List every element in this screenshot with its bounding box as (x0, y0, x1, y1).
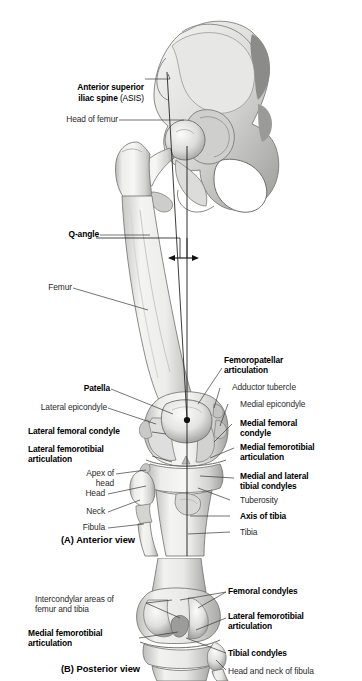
anatomy-figure: Anterior superior iliac spine (ASIS) Hea… (0, 0, 362, 681)
label-lateral-femorotibial-articulation-posterior: Lateral femorotibial articulation (228, 611, 354, 632)
caption-anterior-view: (A) Anterior view (61, 535, 135, 545)
label-fibula: Fibula (62, 522, 105, 532)
label-head-of-femur: Head of femur (22, 114, 118, 124)
label-tuberosity: Tuberosity (240, 495, 340, 505)
label-medial-femorotibial-articulation-posterior: Medial femorotibial articulation (28, 628, 140, 649)
label-femoropatellar-articulation: Femoropatellar articulation (224, 355, 354, 376)
patella-center-marker (184, 417, 190, 423)
caption-posterior-view: (B) Posterior view (61, 664, 140, 674)
label-lateral-femorotibial-articulation: Lateral femorotibial articulation (28, 444, 152, 465)
label-medial-and-lateral-tibial-condyles: Medial and lateral tibial condyles (240, 471, 358, 492)
q-angle-arrow (168, 255, 199, 261)
label-femur: Femur (22, 282, 72, 292)
label-femoral-condyles: Femoral condyles (228, 586, 348, 596)
label-intercondylar-areas: Intercondylar areas of femur and tibia (35, 594, 147, 615)
label-tibial-condyles: Tibial condyles (228, 648, 348, 658)
label-patella: Patella (22, 383, 110, 393)
label-neck: Neck (62, 506, 105, 516)
label-q-angle: Q-angle (22, 229, 99, 239)
label-medial-femorotibial-articulation: Medial femorotibial articulation (240, 442, 360, 463)
label-asis: Anterior superior iliac spine (ASIS) (22, 72, 144, 103)
label-tibia: Tibia (240, 527, 320, 537)
label-head: Head (62, 488, 105, 498)
label-adductor-tubercle: Adductor tubercle (232, 382, 352, 392)
label-medial-epicondyle: Medial epicondyle (240, 399, 356, 409)
label-medial-femoral-condyle: Medial femoral condyle (240, 418, 352, 439)
label-axis-of-tibia: Axis of tibia (240, 511, 340, 521)
label-apex-of-head: Apex of head (62, 468, 114, 489)
label-head-and-neck-of-fibula: Head and neck of fibula (228, 666, 356, 676)
label-lateral-epicondyle: Lateral epicondyle (14, 402, 107, 412)
label-lateral-femoral-condyle: Lateral femoral condyle (28, 426, 153, 436)
